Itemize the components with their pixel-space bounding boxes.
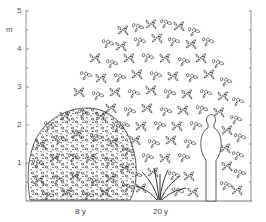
- y-tick-label-3: 3: [17, 83, 21, 91]
- growth-form-figure: 5 4 3 2 1 m 8 y 20 y: [0, 0, 266, 222]
- right-axis: [249, 10, 251, 201]
- label-8-years: 8 y: [75, 207, 86, 216]
- y-tick-label-2: 2: [17, 121, 21, 129]
- label-20-years: 20 y: [153, 207, 168, 216]
- y-axis-unit: m: [6, 25, 13, 34]
- y-tick-label-1: 1: [17, 159, 21, 167]
- y-tick-label-5: 5: [17, 7, 21, 15]
- y-tick-label-4: 4: [17, 45, 21, 53]
- figure-drawing: [0, 0, 266, 222]
